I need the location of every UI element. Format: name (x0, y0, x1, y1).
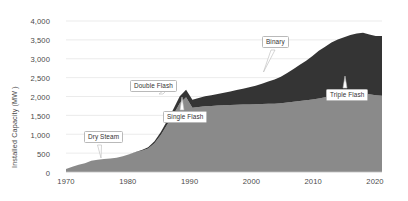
callout-binary: Binary (262, 36, 289, 48)
callout-dry-steam: Dry Steam (84, 131, 123, 143)
leader-dry-steam (98, 145, 102, 158)
callout-triple-flash: Triple Flash (326, 89, 368, 101)
callout-double-flash: Double Flash (130, 80, 177, 92)
leader-binary (264, 50, 276, 72)
geothermal-capacity-area-chart: Installed Capacity (MW ) 0 500 1,000 1,5… (0, 0, 408, 201)
callout-single-flash: Single Flash (163, 111, 207, 123)
